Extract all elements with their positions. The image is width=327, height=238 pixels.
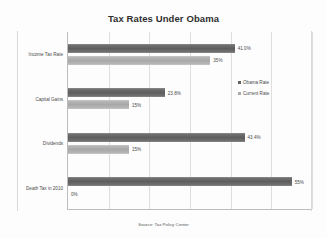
- bar-value-label: 0%: [68, 191, 78, 196]
- bar-line-obama: 41.0%: [68, 44, 311, 53]
- chart-title: Tax Rates Under Obama: [0, 13, 327, 24]
- category-label: Death Tax in 2010: [26, 185, 63, 190]
- bar-line-obama: 55%: [68, 177, 311, 186]
- bar-current-rate: [68, 100, 129, 109]
- bar-value-label: 15%: [129, 147, 141, 152]
- bar-obama-rate: [68, 133, 245, 142]
- bar-line-obama: 23.8%: [68, 88, 311, 97]
- legend-label: Current Rate: [243, 91, 269, 96]
- bar-obama-rate: [68, 177, 292, 186]
- bar-line-current: 35%: [68, 56, 311, 65]
- bar-value-label: 43.4%: [245, 135, 261, 140]
- bar-current-rate: [68, 145, 129, 154]
- chart-container: Tax Rates Under Obama Income Tax Rate 41…: [0, 0, 327, 238]
- bar-value-label: 41.0%: [235, 46, 251, 51]
- bar-obama-rate: [68, 88, 165, 97]
- category-group-capital-gains: Capital Gains 23.8% 15%: [68, 77, 311, 122]
- legend-swatch-icon: [238, 81, 241, 84]
- category-group-death-tax-in-2010: Death Tax in 2010 55% 0%: [68, 166, 311, 211]
- category-label: Dividends: [43, 141, 63, 146]
- bar-value-label: 23.8%: [165, 90, 181, 95]
- legend-item-current-rate: Current Rate: [238, 91, 269, 96]
- category-label: Capital Gains: [35, 96, 63, 101]
- legend-swatch-icon: [238, 92, 241, 95]
- bar-obama-rate: [68, 44, 235, 53]
- legend-label: Obama Rate: [243, 80, 269, 85]
- legend-item-obama-rate: Obama Rate: [238, 80, 269, 85]
- category-label: Income Tax Rate: [29, 52, 63, 57]
- bar-line-obama: 43.4%: [68, 133, 311, 142]
- gridline: [312, 32, 313, 209]
- bar-line-current: 15%: [68, 145, 311, 154]
- category-group-income-tax-rate: Income Tax Rate 41.0% 35%: [68, 32, 311, 77]
- bar-line-current: 0%: [68, 189, 311, 198]
- source-caption: Source: Tax Policy Center: [0, 222, 327, 227]
- chart-legend: Obama Rate Current Rate: [238, 80, 269, 96]
- category-group-dividends: Dividends 43.4% 15%: [68, 121, 311, 166]
- plot-area: Income Tax Rate 41.0% 35% Capital Gains …: [67, 32, 311, 210]
- bar-value-label: 15%: [129, 102, 141, 107]
- bar-value-label: 55%: [292, 179, 304, 184]
- bar-value-label: 35%: [210, 58, 222, 63]
- bar-line-current: 15%: [68, 100, 311, 109]
- bar-current-rate: [68, 56, 210, 65]
